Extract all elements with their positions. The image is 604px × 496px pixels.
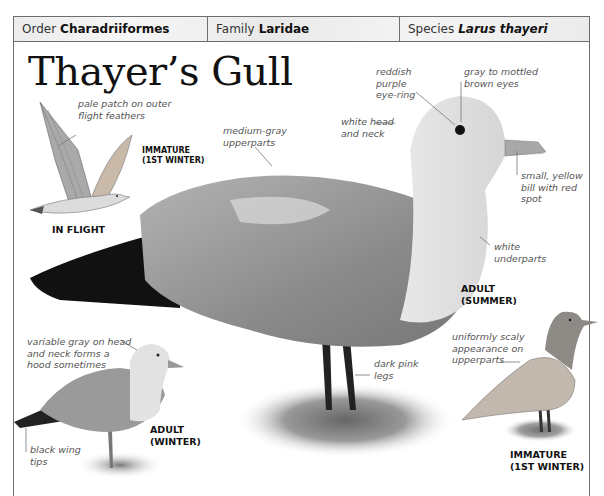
adult-winter-caption: ADULT (WINTER) [150,424,201,448]
label-legs: dark pink legs [374,358,418,381]
label-scaly: uniformly scaly appearance on upperparts [452,331,525,366]
adult-summer-caption: ADULT (SUMMER) [461,283,517,307]
immature-caption: IMMATURE (1ST WINTER) [510,449,584,473]
label-wingtips: black wing tips [30,444,81,467]
label-eye-ring: reddish purple eye-ring [376,66,415,101]
in-flight-age-tag: IMMATURE (1ST WINTER) [142,146,204,166]
label-hood: variable gray on head and neck forms a h… [27,336,131,371]
label-eyes: gray to mottled brown eyes [464,66,538,89]
label-bill: small, yellow bill with red spot [521,170,583,205]
label-pale-patch: pale patch on outer flight feathers [78,98,171,121]
label-underparts: white underparts [494,241,546,264]
in-flight-caption: IN FLIGHT [52,224,105,236]
label-upperparts: medium-gray upperparts [223,125,287,148]
label-head-neck: white head and neck [341,116,394,139]
